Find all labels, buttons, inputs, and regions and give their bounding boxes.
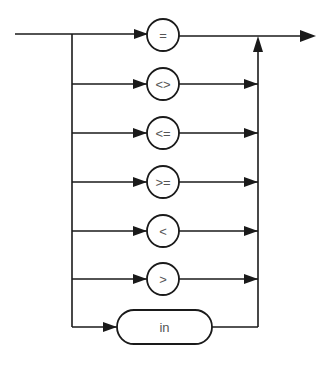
- exit-arrow-icon: [300, 30, 316, 42]
- operator-label: >: [159, 272, 167, 287]
- arrow-icon: [103, 322, 117, 332]
- arrow-icon: [133, 177, 147, 187]
- syntax-diagram: =<><=>=<>in: [0, 0, 336, 366]
- arrow-icon: [133, 226, 147, 236]
- arrow-icon: [134, 29, 148, 39]
- arrow-icon: [244, 226, 258, 236]
- arrow-icon: [244, 274, 258, 284]
- arrow-icon: [133, 128, 147, 138]
- arrow-icon: [244, 79, 258, 89]
- operator-label: =: [159, 28, 167, 43]
- operator-label: <>: [155, 77, 170, 92]
- arrow-icon: [244, 177, 258, 187]
- arrow-icon: [133, 79, 147, 89]
- operator-label: <: [159, 224, 167, 239]
- arrow-icon: [133, 274, 147, 284]
- operator-label: in: [159, 320, 169, 335]
- operator-label: >=: [155, 175, 170, 190]
- operator-label: <=: [155, 126, 170, 141]
- arrow-icon: [244, 128, 258, 138]
- arrow-up-icon: [253, 36, 263, 52]
